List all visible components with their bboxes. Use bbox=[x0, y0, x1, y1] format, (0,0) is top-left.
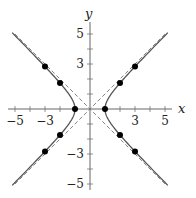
y-tick-label: 3 bbox=[76, 57, 84, 71]
data-point bbox=[42, 148, 48, 154]
x-axis-label: x bbox=[178, 101, 186, 116]
x-tick-label: 5 bbox=[161, 114, 169, 128]
x-tick-label: 3 bbox=[131, 114, 139, 128]
y-tick-label: 5 bbox=[76, 27, 84, 41]
data-point bbox=[57, 132, 63, 138]
data-point bbox=[57, 80, 63, 86]
x-tick-label: −5 bbox=[6, 114, 24, 128]
x-tick-label: −3 bbox=[36, 114, 54, 128]
data-point bbox=[102, 106, 108, 112]
data-point bbox=[117, 80, 123, 86]
data-point bbox=[42, 64, 48, 70]
data-point bbox=[117, 132, 123, 138]
y-tick-label: −5 bbox=[66, 177, 84, 191]
data-point bbox=[72, 106, 78, 112]
hyperbola-chart: −5−33553−3−5 x y bbox=[0, 0, 196, 198]
y-tick-label: −3 bbox=[66, 147, 84, 161]
y-axis-label: y bbox=[84, 6, 93, 21]
data-point bbox=[132, 64, 138, 70]
data-point bbox=[132, 148, 138, 154]
